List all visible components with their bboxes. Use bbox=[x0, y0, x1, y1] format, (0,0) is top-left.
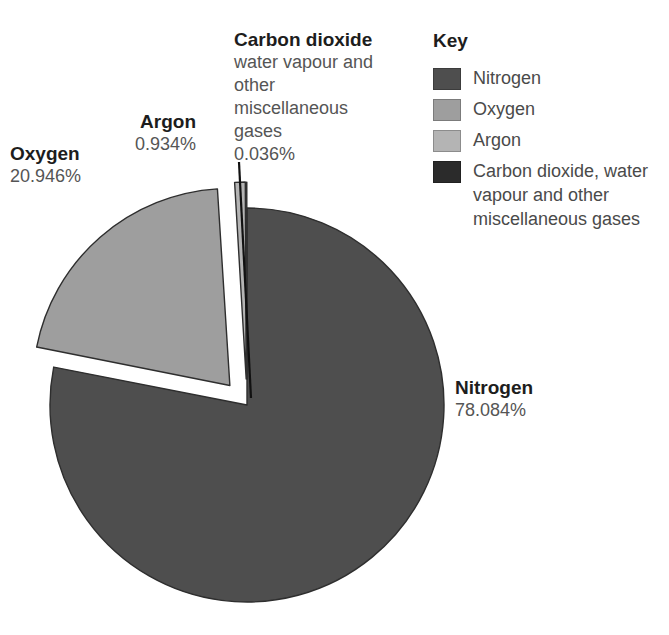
key-row: Oxygen bbox=[433, 97, 661, 121]
key-panel: Key NitrogenOxygenArgonCarbon dioxide, w… bbox=[433, 30, 661, 238]
key-label: Nitrogen bbox=[473, 66, 541, 90]
key-row: Carbon dioxide, water vapour and other m… bbox=[433, 159, 661, 231]
callout-oxygen-value: 20.946% bbox=[10, 165, 132, 188]
callout-nitrogen: Nitrogen 78.084% bbox=[455, 376, 533, 422]
legend-swatch-icon bbox=[433, 161, 461, 183]
pie-slice[interactable] bbox=[37, 189, 230, 386]
pie-chart-figure: Carbon dioxide water vapour and other mi… bbox=[0, 0, 669, 635]
callout-carbon-dioxide-name: Carbon dioxide bbox=[234, 28, 370, 51]
key-label: Argon bbox=[473, 128, 521, 152]
legend-swatch-icon bbox=[433, 130, 461, 152]
legend-swatch-icon bbox=[433, 68, 461, 90]
callout-nitrogen-value: 78.084% bbox=[455, 399, 533, 422]
callout-oxygen: Oxygen 20.946% bbox=[10, 142, 132, 188]
callout-carbon-dioxide-value: 0.036% bbox=[234, 143, 370, 166]
callout-carbon-dioxide-detail: water vapour and other miscellaneous gas… bbox=[234, 51, 374, 143]
key-label: Oxygen bbox=[473, 97, 535, 121]
callout-argon-name: Argon bbox=[80, 110, 196, 133]
callout-carbon-dioxide: Carbon dioxide water vapour and other mi… bbox=[234, 28, 370, 166]
legend-swatch-icon bbox=[433, 99, 461, 121]
key-label: Carbon dioxide, water vapour and other m… bbox=[473, 159, 653, 231]
key-row: Nitrogen bbox=[433, 66, 661, 90]
key-row: Argon bbox=[433, 128, 661, 152]
pie-slices-group bbox=[37, 182, 444, 602]
callout-oxygen-name: Oxygen bbox=[10, 142, 132, 165]
callout-nitrogen-name: Nitrogen bbox=[455, 376, 533, 399]
key-title: Key bbox=[433, 30, 661, 52]
key-items-list: NitrogenOxygenArgonCarbon dioxide, water… bbox=[433, 66, 661, 231]
